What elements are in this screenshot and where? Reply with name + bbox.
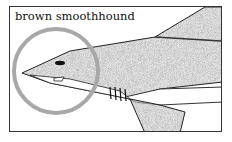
species-caption: brown smoothhound: [15, 9, 135, 23]
shark-illustration: [10, 7, 222, 132]
shark-eye: [55, 61, 65, 65]
illustration-frame: brown smoothhound: [9, 6, 222, 132]
